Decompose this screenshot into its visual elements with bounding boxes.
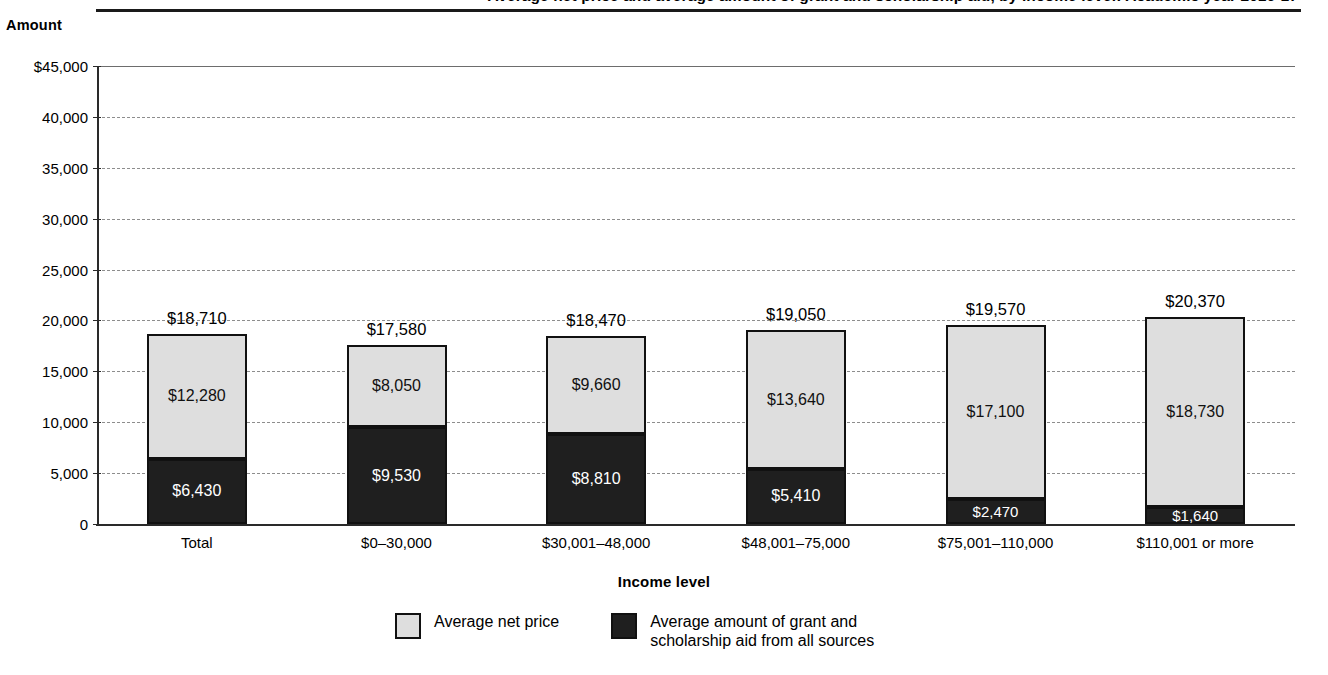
bar-segment-grant-aid[interactable]: $1,640	[1145, 507, 1245, 524]
y-axis-tick-label: 10,000	[2, 414, 88, 431]
bar-segment-net-price[interactable]: $8,050	[347, 345, 447, 427]
gridline	[97, 66, 1295, 67]
y-axis-tick	[93, 168, 101, 169]
x-axis-tick-label: $30,001–48,000	[542, 534, 650, 551]
bar-total-label: $17,580	[323, 320, 471, 339]
chart-legend: Average net price Average amount of gran…	[395, 612, 874, 650]
bar-segment-net-price[interactable]: $13,640	[746, 330, 846, 469]
bar-segment-grant-aid[interactable]: $8,810	[546, 434, 646, 524]
figure-title: Average net price and average amount of …	[0, 0, 1328, 5]
y-axis-tick	[93, 219, 101, 220]
bar-stack[interactable]: $17,100$2,470$19,570	[946, 325, 1046, 524]
gridline	[97, 270, 1295, 271]
x-axis-tick-label: $75,001–110,000	[938, 534, 1054, 551]
legend-swatch-net-price	[395, 613, 421, 639]
gridline	[97, 422, 1295, 423]
bar-segment-net-price[interactable]: $17,100	[946, 325, 1046, 499]
bar-segment-grant-aid[interactable]: $2,470	[946, 499, 1046, 524]
gridline	[97, 320, 1295, 321]
legend-label-net-price: Average net price	[434, 612, 559, 631]
x-axis-tick-labels: Total$0–30,000$30,001–48,000$48,001–75,0…	[97, 534, 1295, 556]
y-axis-tick	[93, 524, 101, 525]
y-axis-tick-label: 0	[2, 516, 88, 533]
bar-total-label: $19,050	[722, 305, 870, 324]
bar-stack[interactable]: $8,050$9,530$17,580	[347, 345, 447, 524]
y-axis-tick-label: 20,000	[2, 312, 88, 329]
bar-total-label: $18,470	[522, 311, 670, 330]
gridline	[97, 168, 1295, 169]
legend-item-net-price: Average net price	[395, 612, 559, 639]
bar-segment-net-price[interactable]: $12,280	[147, 334, 247, 459]
y-axis-tick	[93, 473, 101, 474]
y-axis-tick	[93, 320, 101, 321]
bar-stack[interactable]: $13,640$5,410$19,050	[746, 330, 846, 524]
plot-area: $12,280$6,430$18,710$8,050$9,530$17,580$…	[97, 66, 1295, 524]
x-axis-tick-label: $110,001 or more	[1137, 534, 1254, 551]
bar-segment-grant-aid[interactable]: $9,530	[347, 427, 447, 524]
y-axis-tick-label: 15,000	[2, 363, 88, 380]
y-axis-tick-label: $45,000	[2, 58, 88, 75]
x-axis-title: Income level	[0, 573, 1328, 590]
legend-item-grant-aid: Average amount of grant and scholarship …	[611, 612, 874, 650]
y-axis-tick	[93, 117, 101, 118]
gridline	[97, 473, 1295, 474]
y-axis-tick	[93, 66, 101, 67]
y-axis-tick	[93, 371, 101, 372]
bar-stack[interactable]: $18,730$1,640$20,370	[1145, 317, 1245, 524]
y-axis-tick	[93, 422, 101, 423]
bar-segment-net-price[interactable]: $18,730	[1145, 317, 1245, 508]
bar-total-label: $19,570	[922, 300, 1070, 319]
y-axis-tick-label: 40,000	[2, 108, 88, 125]
bar-segment-grant-aid[interactable]: $6,430	[147, 459, 247, 524]
x-axis-tick-label: Total	[181, 534, 213, 551]
y-axis-tick-label: 25,000	[2, 261, 88, 278]
y-axis-line	[97, 66, 99, 524]
bar-stack[interactable]: $12,280$6,430$18,710	[147, 334, 247, 524]
legend-swatch-grant-aid	[611, 613, 637, 639]
y-axis-tick-labels: $45,00040,00035,00030,00025,00020,00015,…	[0, 66, 88, 524]
y-axis-tick-label: 5,000	[2, 465, 88, 482]
y-axis-tick-label: 35,000	[2, 159, 88, 176]
gridline	[97, 371, 1295, 372]
bar-total-label: $20,370	[1121, 292, 1269, 311]
y-axis-tick	[93, 270, 101, 271]
y-axis-caption: Amount	[6, 17, 62, 33]
y-axis-tick-label: 30,000	[2, 210, 88, 227]
gridline	[97, 219, 1295, 220]
bar-segment-net-price[interactable]: $9,660	[546, 336, 646, 434]
x-axis-line	[96, 524, 1295, 526]
title-divider-rule	[96, 9, 1301, 12]
bar-segment-grant-aid[interactable]: $5,410	[746, 469, 846, 524]
gridline	[97, 117, 1295, 118]
bar-total-label: $18,710	[123, 309, 271, 328]
x-axis-tick-label: $48,001–75,000	[742, 534, 850, 551]
bar-stack[interactable]: $9,660$8,810$18,470	[546, 336, 646, 524]
x-axis-tick-label: $0–30,000	[361, 534, 432, 551]
legend-label-grant-aid: Average amount of grant and scholarship …	[650, 612, 874, 650]
